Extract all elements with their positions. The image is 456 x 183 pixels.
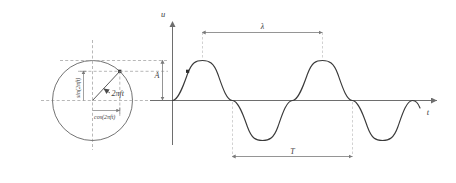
- wave-plot-group: u t A λ T: [150, 9, 437, 157]
- wave-phase-point-marker: [186, 70, 189, 73]
- figure-canvas: sin(2πft) cos(2πft) 2πft u t A λ: [0, 0, 456, 183]
- angle-pointer-arrow: [104, 89, 111, 94]
- u-axis-label: u: [161, 9, 165, 19]
- sine-projection-label: sin(2πft): [75, 78, 82, 98]
- cosine-projection-label: cos(2πft): [94, 114, 115, 121]
- sine-wave-phasor-figure: sin(2πft) cos(2πft) 2πft u t A λ: [0, 0, 456, 183]
- amplitude-label: A: [154, 71, 160, 80]
- period-label: T: [290, 147, 295, 156]
- angle-label: 2πft: [112, 89, 125, 98]
- t-axis-label: t: [427, 107, 430, 117]
- phasor-circle-group: sin(2πft) cos(2πft) 2πft: [41, 40, 168, 150]
- wavelength-label: λ: [260, 22, 265, 31]
